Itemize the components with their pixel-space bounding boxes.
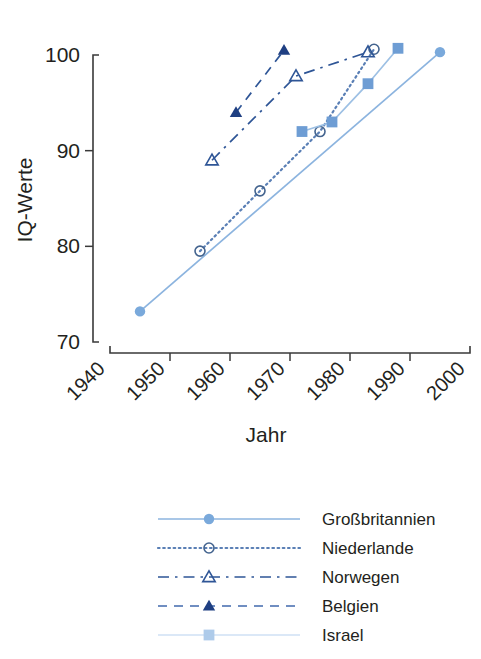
chart-legend: GroßbritannienNiederlandeNorwegenBelgien… [158, 510, 435, 645]
x-tick-label-1940: 1940 [62, 357, 109, 404]
legend-item-israel: Israel [158, 626, 364, 645]
series-belgien [230, 44, 290, 117]
y-axis-title: IQ-Werte [13, 158, 36, 243]
data-point [327, 117, 338, 128]
legend-label: Norwegen [322, 568, 400, 587]
series-line [236, 50, 284, 112]
data-point [290, 70, 302, 81]
y-axis: 708090100 [45, 43, 99, 353]
series-norwegen [206, 46, 374, 165]
series-line [200, 49, 374, 251]
legend-label: Israel [322, 626, 364, 645]
chart-canvas: 708090100 1940195019601970198019902000 I… [0, 0, 481, 659]
x-tick-label-1970: 1970 [242, 357, 289, 404]
data-point [195, 246, 205, 256]
y-axis-spine [93, 55, 99, 342]
legend-item-norwegen: Norwegen [158, 568, 400, 587]
series-line [140, 52, 440, 311]
legend-item-belgien: Belgien [158, 597, 379, 616]
data-point [255, 186, 265, 196]
legend-label: Großbritannien [322, 510, 435, 529]
legend-marker [204, 514, 214, 524]
iq-flynn-effect-chart: 708090100 1940195019601970198019902000 I… [0, 0, 481, 659]
data-point [435, 47, 445, 57]
y-tick-label-100: 100 [45, 43, 80, 66]
data-point [278, 44, 290, 55]
series-gro-britannien [135, 47, 445, 317]
series-israel [297, 43, 404, 137]
data-point [315, 127, 325, 137]
y-tick-label-90: 90 [57, 139, 80, 162]
data-point [135, 306, 145, 316]
series-line [212, 52, 368, 160]
legend-item-niederlande: Niederlande [158, 539, 414, 558]
x-tick-label-1950: 1950 [122, 357, 169, 404]
legend-label: Niederlande [322, 539, 414, 558]
x-axis: 1940195019601970198019902000 [62, 346, 470, 404]
legend-item-gro-britannien: Großbritannien [158, 510, 435, 529]
y-tick-label-80: 80 [57, 234, 80, 257]
x-axis-title: Jahr [246, 423, 287, 446]
y-tick-label-70: 70 [57, 330, 80, 353]
legend-marker [204, 630, 215, 641]
data-point [363, 78, 374, 89]
legend-label: Belgien [322, 597, 379, 616]
series-line [302, 48, 398, 131]
x-axis-spine [110, 346, 470, 353]
data-series-layer [135, 43, 445, 317]
data-point [393, 43, 404, 54]
x-tick-label-2000: 2000 [422, 357, 469, 404]
data-point [297, 126, 308, 137]
series-niederlande [195, 44, 379, 256]
x-tick-label-1990: 1990 [362, 357, 409, 404]
legend-marker [204, 543, 214, 553]
x-tick-label-1960: 1960 [182, 357, 229, 404]
x-tick-label-1980: 1980 [302, 357, 349, 404]
